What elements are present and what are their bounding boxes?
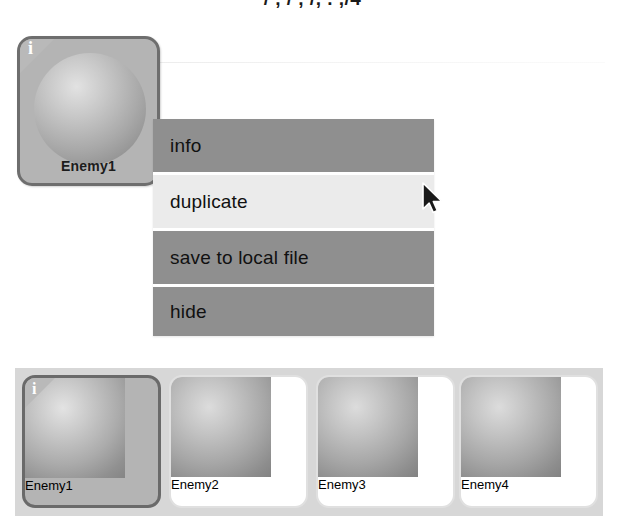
asset-card-label: Enemy1	[20, 158, 157, 174]
badge-wedge-shape	[25, 378, 55, 408]
menu-item-hide[interactable]: hide	[153, 287, 434, 336]
badge-wedge-shape	[20, 39, 54, 73]
menu-item-duplicate[interactable]: duplicate	[153, 175, 434, 228]
thumbnail-card-enemy1[interactable]: i Enemy1	[22, 375, 161, 508]
thumbnail-card-enemy4[interactable]: Enemy4	[459, 375, 598, 508]
info-badge-icon[interactable]: i	[25, 378, 55, 408]
thumbnail-card-enemy3[interactable]: Enemy3	[316, 375, 455, 508]
thumbnail-card-label: Enemy1	[25, 478, 158, 493]
info-letter: i	[32, 380, 36, 397]
thumbnail-card-enemy2[interactable]: Enemy2	[169, 375, 308, 508]
info-badge-icon[interactable]: i	[20, 39, 54, 73]
sphere-thumbnail	[318, 377, 418, 477]
sphere-thumbnail	[171, 377, 271, 477]
thumbnail-card-label: Enemy2	[171, 477, 306, 492]
thumbnail-card-label: Enemy4	[461, 477, 596, 492]
asset-card-enemy1[interactable]: i Enemy1	[17, 36, 160, 186]
menu-item-save-to-local-file[interactable]: save to local file	[153, 231, 434, 284]
context-menu[interactable]: info duplicate save to local file hide	[153, 119, 434, 336]
menu-item-info[interactable]: info	[153, 119, 434, 172]
info-letter: i	[28, 40, 33, 57]
thumbnail-card-label: Enemy3	[318, 477, 453, 492]
sphere-thumbnail	[461, 377, 561, 477]
divider-line	[150, 62, 605, 63]
cropped-top-text: / , / , /, . ,/4	[0, 0, 625, 8]
